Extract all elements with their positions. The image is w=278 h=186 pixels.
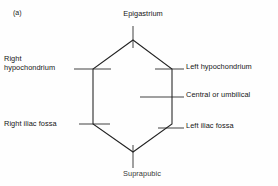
region-label-left-iliac-fossa: Left iliac fossa (186, 122, 234, 131)
region-label-right-hypochondrium: Righthypochondrium (4, 55, 88, 72)
region-label-epigastrium: Epigastrium (0, 10, 278, 19)
abdominal-regions-figure: (a) Epigastrium Righthypochondrium Left … (0, 0, 278, 186)
region-label-suprapubic: Suprapubic (0, 170, 278, 179)
hexagon-outline (93, 40, 172, 152)
region-label-right-iliac-fossa: Right iliac fossa (4, 120, 84, 129)
region-label-right-hypochondrium-line2: hypochondrium (4, 63, 55, 72)
region-label-left-hypochondrium: Left hypochondrium (186, 63, 252, 72)
region-label-central-or-umbilical: Central or umbilical (186, 91, 250, 100)
